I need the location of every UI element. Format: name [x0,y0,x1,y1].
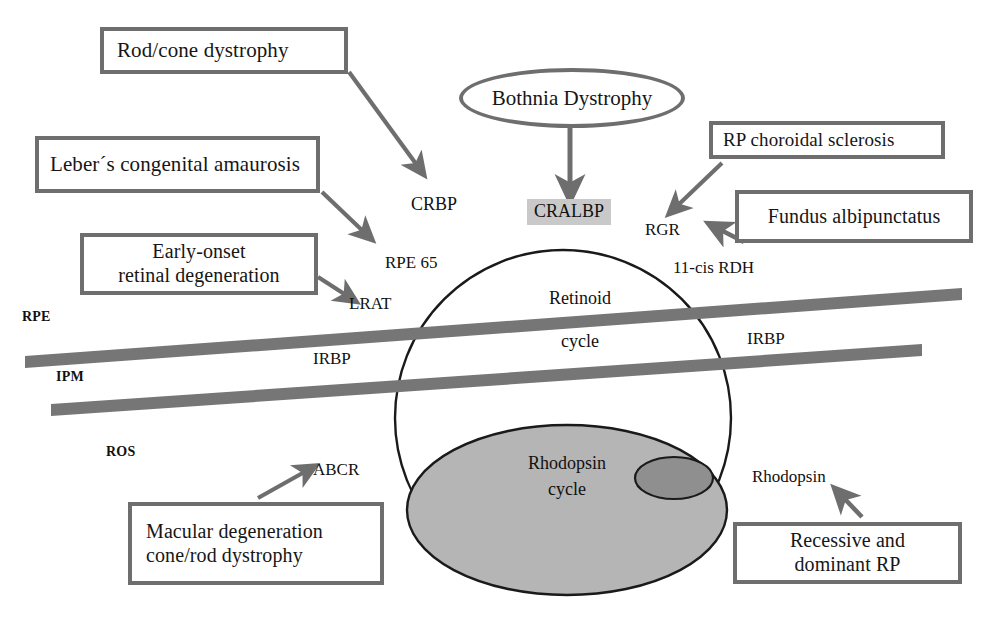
protein-label-11-cis-rdh: 11-cis RDH [673,258,754,278]
band-label-irbp-left: IRBP [313,349,351,369]
layer-label-ipm: IPM [56,369,84,385]
disease-box-label-line1: Recessive and [790,529,905,553]
arrow-recessiverp-to-rhodopsin [841,495,862,517]
band-label-irbp-right: IRBP [747,329,785,349]
arrow-earlyonset-to-lrat [318,277,349,297]
disease-box-early-onset-retinal-degeneration[interactable]: Early-onset retinal degeneration [80,233,318,295]
disease-box-label: Fundus albipunctatus [768,205,941,229]
arrow-rodcone-to-crbp [349,72,419,168]
disease-box-fundus-albipunctatus[interactable]: Fundus albipunctatus [735,190,973,243]
disease-box-rod-cone-dystrophy[interactable]: Rod/cone dystrophy [100,27,348,74]
disease-box-label-line1: Early-onset [152,240,245,264]
arrow-lebers-to-rpe65 [322,192,366,234]
disease-box-macular-degeneration[interactable]: Macular degeneration cone/rod dystrophy [128,502,384,585]
disease-box-recessive-dominant-rp[interactable]: Recessive and dominant RP [733,522,962,584]
disease-box-label-line1: Macular degeneration [146,520,323,544]
protein-label-abcr: ABCR [313,460,359,480]
inner-spot-ellipse [635,457,713,499]
cycle-label-rhodopsin: Rhodopsin cycle [507,450,627,502]
disease-box-label: Rod/cone dystrophy [117,38,289,63]
cycle-label-line1: Rhodopsin [507,450,627,476]
arrow-macular-to-abcr [258,470,308,498]
protein-label-cralbp: CRALBP [527,199,611,225]
disease-ellipse-bothnia-dystrophy[interactable]: Bothnia Dystrophy [459,68,685,128]
diagram-canvas: Rod/cone dystrophy Leber´s congenital am… [0,0,987,619]
protein-label-crbp: CRBP [411,194,457,215]
protein-label-text: CRALBP [534,201,604,221]
disease-box-label-line2: dominant RP [794,553,900,577]
cycle-label-line1: Retinoid [525,285,635,311]
disease-ellipse-label: Bothnia Dystrophy [492,86,652,111]
disease-box-label-line2: cone/rod dystrophy [146,544,303,568]
protein-label-lrat: LRAT [349,294,392,314]
protein-label-rhodopsin: Rhodopsin [752,467,826,487]
arrow-rpchoroidal-to-rgr [675,163,722,208]
protein-label-rgr: RGR [645,220,680,240]
cycle-label-retinoid: Retinoid cycle [525,285,635,354]
layer-label-rpe: RPE [22,309,51,325]
cycle-label-line2: cycle [525,328,635,354]
cycle-label-line2: cycle [507,476,627,502]
disease-box-label: Leber´s congenital amaurosis [50,152,300,177]
disease-box-label: RP choroidal sclerosis [723,129,894,151]
disease-box-rp-choroidal-sclerosis[interactable]: RP choroidal sclerosis [709,121,945,159]
disease-box-lebers-congenital-amaurosis[interactable]: Leber´s congenital amaurosis [35,136,320,193]
layer-label-ros: ROS [106,444,135,460]
protein-label-rpe65: RPE 65 [385,253,437,273]
disease-box-label-line2: retinal degeneration [118,264,279,288]
